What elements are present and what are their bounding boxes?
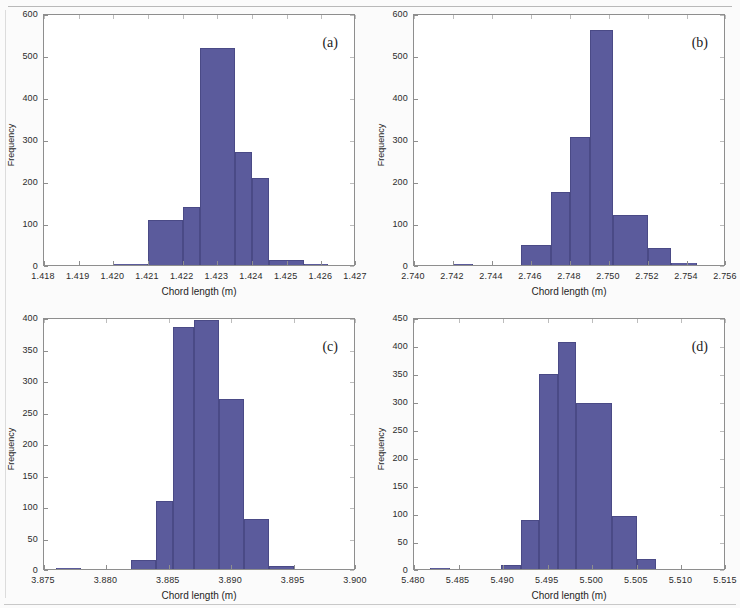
y-axis-tick [44,141,48,142]
y-axis-tick-label: 250 [370,425,408,435]
x-axis-tick-top [252,15,253,19]
histogram-bar [219,399,244,569]
y-axis-tick [44,570,48,571]
y-axis-tick-right [350,540,354,541]
x-axis-tick-top [592,319,593,323]
y-axis-tick-label: 50 [0,534,38,544]
x-axis-tick-label: 1.421 [135,271,159,281]
y-axis-tick [414,459,418,460]
x-axis-tick-label: 2.752 [635,271,659,281]
x-axis-tick-top [321,15,322,19]
x-axis-tick [355,261,356,265]
histogram-bar [613,215,648,265]
x-axis-tick-top [355,319,356,323]
y-axis-tick-label: 150 [0,471,38,481]
x-axis-tick-label: 5.500 [580,575,604,585]
x-axis-tick [79,261,80,265]
x-axis-tick [492,261,493,265]
x-axis-tick-top [453,15,454,19]
histogram-bar [148,220,183,265]
histogram-bar [173,327,194,569]
panel-d-plot-frame: (d) [413,318,725,570]
y-axis-tick-right [720,99,724,100]
x-axis-tick [687,261,688,265]
y-axis-tick-label: 200 [370,453,408,463]
y-axis-tick-label: 300 [370,397,408,407]
x-axis-tick-label: 5.480 [401,575,425,585]
y-axis-tick-right [720,225,724,226]
x-axis-tick-top [217,15,218,19]
y-axis-tick [414,347,418,348]
y-axis-tick-right [350,57,354,58]
y-axis-tick [414,15,418,16]
x-axis-tick [453,261,454,265]
y-axis-tick-label: 350 [370,369,408,379]
x-axis-tick-top [459,319,460,323]
y-axis-tick-label: 100 [0,502,38,512]
y-axis-tick [414,375,418,376]
y-axis-tick-label: 500 [0,51,38,61]
x-axis-tick-top [570,15,571,19]
y-axis-tick-label: 400 [0,93,38,103]
histogram-bar [200,48,235,265]
y-axis-tick-label: 300 [370,135,408,145]
x-axis-tick [459,565,460,569]
y-axis-tick [44,99,48,100]
y-axis-tick-label: 450 [370,313,408,323]
panel-d-tag: (d) [692,339,708,355]
x-axis-tick-top [79,15,80,19]
y-axis-tick-label: 100 [370,219,408,229]
x-axis-tick-top [169,319,170,323]
panel-b-x-axis-label: Chord length (m) [413,286,725,297]
x-axis-tick [217,261,218,265]
x-axis-tick [548,565,549,569]
y-axis-tick [44,445,48,446]
x-axis-tick [355,565,356,569]
y-axis-tick-right [350,477,354,478]
x-axis-tick-top [287,15,288,19]
y-axis-tick [44,183,48,184]
x-axis-tick-top [294,319,295,323]
histogram-bar [648,248,671,265]
y-axis-tick-label: 400 [370,341,408,351]
histogram-bar [501,565,521,569]
histogram-bar [56,568,81,569]
y-axis-tick [414,225,418,226]
y-axis-tick [44,477,48,478]
x-axis-tick-label: 2.754 [674,271,698,281]
y-axis-tick-label: 200 [0,439,38,449]
panel-a-plot-area [44,15,354,265]
y-axis-tick-right [350,382,354,383]
y-axis-tick [44,540,48,541]
panel-b-plot-area [414,15,724,265]
y-axis-tick-right [720,183,724,184]
x-axis-tick-label: 1.426 [309,271,333,281]
x-axis-tick [681,565,682,569]
x-axis-tick-label: 5.485 [446,575,470,585]
panel-c: Frequency (c) Chord length (m) 3.8753.88… [0,304,370,608]
y-axis-tick-label: 400 [0,313,38,323]
x-axis-tick-top [113,15,114,19]
x-axis-tick [570,261,571,265]
y-axis-tick-right [720,459,724,460]
panel-b-plot-frame: (b) [413,14,725,266]
histogram-bar [637,559,657,569]
y-axis-tick [414,487,418,488]
y-axis-tick-right [720,266,724,267]
y-axis-tick-label: 100 [370,509,408,519]
y-axis-tick-label: 150 [370,481,408,491]
histogram-bar [131,560,156,569]
y-axis-tick-right [720,403,724,404]
histogram-bar [252,178,269,265]
histogram-bar [304,264,328,265]
x-axis-tick-label: 1.419 [66,271,90,281]
y-axis-tick-label: 0 [370,565,408,575]
x-axis-tick-label: 5.510 [669,575,693,585]
histogram-bar [539,374,559,569]
x-axis-tick [531,261,532,265]
x-axis-tick [106,565,107,569]
x-axis-tick [592,565,593,569]
y-axis-tick-right [720,570,724,571]
x-axis-tick-label: 1.425 [274,271,298,281]
y-axis-tick-right [350,225,354,226]
